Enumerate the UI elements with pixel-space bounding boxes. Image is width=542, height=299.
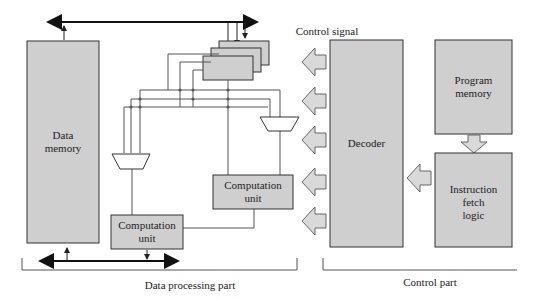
instruction-fetch-label: Instruction fetch logic: [435, 183, 512, 222]
control-signal-label: Control signal: [282, 25, 372, 38]
bottom-data-bus: [42, 248, 176, 261]
decoder-label: Decoder: [330, 137, 403, 150]
computation-unit-upper-label: Computation unit: [213, 179, 293, 205]
program-to-fetch-arrow: [461, 135, 487, 153]
architecture-diagram: Data memory Computation unit Computation…: [0, 0, 542, 299]
mux-left: [112, 154, 150, 169]
control-part-label: Control part: [380, 276, 480, 289]
computation-unit-lower-label: Computation unit: [111, 219, 183, 245]
data-processing-bracket: [22, 258, 297, 270]
register-file-stack: [203, 41, 269, 80]
data-memory-label: Data memory: [27, 129, 99, 155]
mux-right: [260, 117, 299, 131]
program-memory-label: Program memory: [435, 74, 512, 100]
control-part-bracket: [323, 258, 517, 270]
data-processing-part-label: Data processing part: [130, 279, 250, 292]
